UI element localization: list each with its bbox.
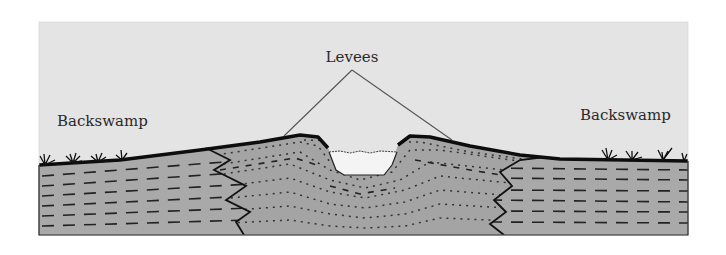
- levees-label: Levees: [326, 48, 379, 66]
- backswamp-left-label: Backswamp: [57, 112, 148, 130]
- levee-cross-section-diagram: Levees Backswamp Backswamp: [0, 0, 726, 255]
- backswamp-right-label: Backswamp: [580, 106, 671, 124]
